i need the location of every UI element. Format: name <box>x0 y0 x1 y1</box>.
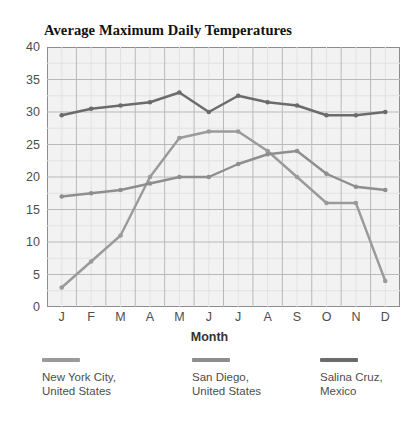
x-axis-tick-label: A <box>263 310 271 324</box>
x-axis-tick-label: O <box>322 310 332 324</box>
y-axis-tick-label: 30 <box>10 105 40 119</box>
x-axis-tick-label: N <box>351 310 360 324</box>
legend-swatch <box>192 358 230 362</box>
chart-legend: New York City,United StatesSan Diego,Uni… <box>0 358 419 408</box>
data-point <box>206 129 211 134</box>
chart-svg <box>47 47 400 307</box>
y-axis-tick-label: 35 <box>10 73 40 87</box>
legend-swatch <box>42 358 80 362</box>
data-point <box>59 285 64 290</box>
legend-label-line2: United States <box>192 384 307 398</box>
data-point <box>118 233 123 238</box>
legend-swatch <box>320 358 358 362</box>
legend-item[interactable]: Salina Cruz,Mexico <box>320 358 419 398</box>
data-point <box>59 194 64 199</box>
y-axis-tick-label: 25 <box>10 138 40 152</box>
data-point <box>148 175 153 180</box>
data-point <box>354 113 359 118</box>
chart-page: Average Maximum Daily Temperatures 05101… <box>0 0 419 424</box>
legend-item[interactable]: San Diego,United States <box>192 358 307 398</box>
legend-label-line1: New York City, <box>42 370 157 384</box>
data-point <box>295 175 300 180</box>
data-point <box>89 259 94 264</box>
data-point <box>324 113 329 118</box>
data-point <box>383 188 388 193</box>
data-point <box>324 201 329 206</box>
data-point <box>295 103 300 108</box>
data-point <box>206 175 211 180</box>
data-point <box>324 171 329 176</box>
data-point <box>354 184 359 189</box>
y-axis-tick-label: 20 <box>10 170 40 184</box>
data-point <box>236 129 241 134</box>
data-point <box>354 201 359 206</box>
x-axis-tick-label: J <box>206 310 212 324</box>
x-axis-tick-label: A <box>146 310 154 324</box>
data-point <box>118 188 123 193</box>
x-axis-tick-label: F <box>87 310 95 324</box>
chart-title: Average Maximum Daily Temperatures <box>44 22 292 39</box>
plot-area <box>47 47 400 307</box>
data-point <box>177 136 182 141</box>
data-point <box>89 191 94 196</box>
data-point <box>383 110 388 115</box>
grid-major <box>47 47 400 307</box>
legend-item[interactable]: New York City,United States <box>42 358 157 398</box>
data-point <box>295 149 300 154</box>
data-point <box>236 162 241 167</box>
x-axis-tick-labels: JFMAMJJASOND <box>47 310 400 330</box>
legend-label-line1: San Diego, <box>192 370 307 384</box>
x-axis-tick-label: J <box>59 310 65 324</box>
x-axis-tick-label: J <box>235 310 241 324</box>
x-axis-title: Month <box>0 330 419 344</box>
data-point <box>177 90 182 95</box>
x-axis-tick-label: S <box>293 310 301 324</box>
y-axis-tick-label: 5 <box>10 268 40 282</box>
legend-label-line2: Mexico <box>320 384 419 398</box>
data-point <box>383 279 388 284</box>
data-point <box>118 103 123 108</box>
y-axis-tick-label: 0 <box>10 300 40 314</box>
data-point <box>236 93 241 98</box>
data-point <box>265 100 270 105</box>
x-axis-tick-label: M <box>174 310 184 324</box>
data-point <box>206 110 211 115</box>
legend-label-line2: United States <box>42 384 157 398</box>
legend-label-line1: Salina Cruz, <box>320 370 419 384</box>
data-point <box>177 175 182 180</box>
y-axis-tick-labels: 0510152025303540 <box>8 47 40 307</box>
x-axis-tick-label: D <box>381 310 390 324</box>
data-point <box>265 152 270 157</box>
data-point <box>59 113 64 118</box>
y-axis-tick-label: 10 <box>10 235 40 249</box>
data-point <box>148 100 153 105</box>
y-axis-tick-label: 40 <box>10 40 40 54</box>
data-point <box>89 106 94 111</box>
y-axis-tick-label: 15 <box>10 203 40 217</box>
x-axis-tick-label: M <box>115 310 125 324</box>
data-point <box>148 181 153 186</box>
